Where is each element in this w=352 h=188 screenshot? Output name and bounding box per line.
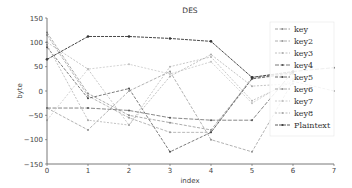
x-tick-label: 0 bbox=[45, 167, 49, 175]
y-tick-label: −50 bbox=[28, 112, 43, 120]
svg-text:Plaintext: Plaintext bbox=[294, 121, 331, 130]
svg-text:key4: key4 bbox=[294, 61, 313, 70]
y-tick-label: −100 bbox=[24, 136, 43, 144]
series-key3 bbox=[46, 41, 294, 126]
x-tick-label: 7 bbox=[332, 167, 336, 175]
series-key8 bbox=[46, 44, 294, 126]
y-tick-label: 0 bbox=[39, 88, 43, 96]
x-tick-label: 5 bbox=[250, 167, 254, 175]
x-axis-label: index bbox=[180, 177, 199, 185]
y-tick-label: 150 bbox=[30, 15, 43, 23]
x-tick-label: 4 bbox=[209, 167, 214, 175]
series-key bbox=[46, 32, 294, 131]
y-tick-label: −150 bbox=[24, 161, 43, 169]
svg-text:key6: key6 bbox=[294, 85, 313, 94]
x-tick-label: 6 bbox=[291, 167, 296, 175]
svg-text:key3: key3 bbox=[294, 49, 313, 58]
y-tick-label: 100 bbox=[30, 39, 43, 47]
x-tick-label: 1 bbox=[86, 167, 90, 175]
svg-text:key7: key7 bbox=[294, 97, 313, 106]
y-axis-label: byte bbox=[16, 83, 24, 99]
svg-text:key5: key5 bbox=[294, 73, 313, 82]
x-tick-label: 2 bbox=[127, 167, 131, 175]
legend: keykey2key3key4key5key6key7key8Plaintext bbox=[270, 22, 334, 136]
svg-text:key8: key8 bbox=[294, 109, 313, 118]
y-tick-label: 50 bbox=[34, 63, 43, 71]
svg-text:key: key bbox=[294, 25, 309, 34]
series-key7 bbox=[46, 61, 294, 121]
series-key5 bbox=[46, 46, 294, 153]
chart-title: DES bbox=[182, 6, 198, 15]
x-tick-label: 3 bbox=[168, 167, 172, 175]
svg-text:key2: key2 bbox=[294, 37, 313, 46]
line-chart: DES 150100500−50−100−15001234567 index b… bbox=[0, 0, 352, 188]
